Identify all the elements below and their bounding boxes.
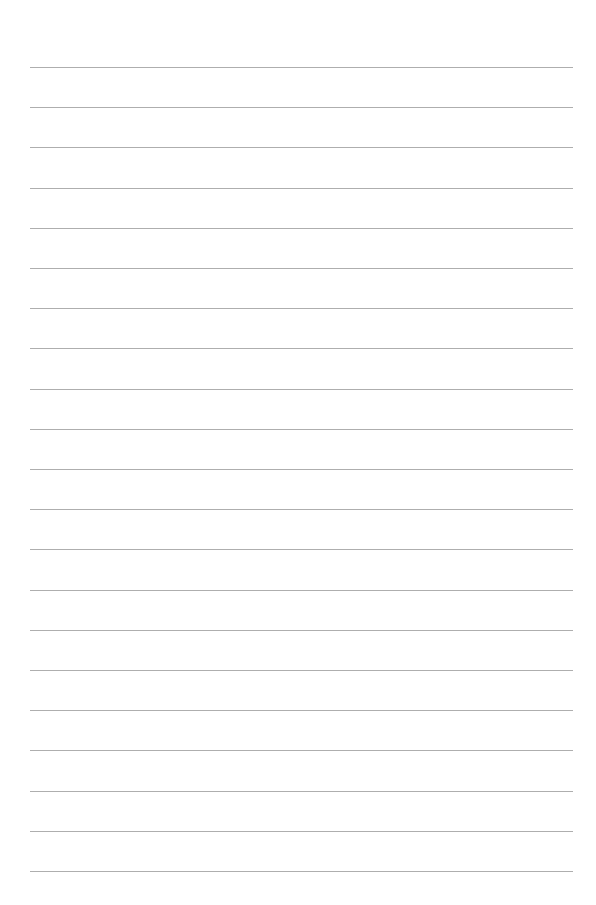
ruled-line [30, 348, 573, 349]
ruled-line [30, 590, 573, 591]
ruled-line [30, 188, 573, 189]
ruled-line [30, 107, 573, 108]
ruled-line [30, 67, 573, 68]
ruled-line [30, 308, 573, 309]
ruled-line [30, 228, 573, 229]
ruled-line [30, 509, 573, 510]
ruled-line [30, 469, 573, 470]
ruled-line [30, 791, 573, 792]
ruled-line [30, 147, 573, 148]
ruled-line [30, 831, 573, 832]
ruled-line [30, 389, 573, 390]
ruled-line [30, 549, 573, 550]
ruled-line [30, 429, 573, 430]
ruled-line [30, 630, 573, 631]
lined-paper-page [0, 0, 596, 905]
ruled-line [30, 670, 573, 671]
ruled-line [30, 871, 573, 872]
ruled-line [30, 268, 573, 269]
ruled-line [30, 710, 573, 711]
ruled-line [30, 750, 573, 751]
